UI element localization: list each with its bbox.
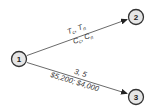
- node-1: 1: [12, 52, 27, 67]
- node-1-label: 1: [17, 55, 22, 64]
- edge-1-to-2: Tc, Tn Cc, Cn: [27, 20, 127, 56]
- network-diagram: Tc, Tn Cc, Cn 3, 5 $5,200; $4,000 1 2 3: [0, 0, 155, 109]
- node-3: 3: [129, 90, 144, 105]
- node-2: 2: [129, 10, 144, 25]
- node-3-label: 3: [134, 93, 139, 102]
- edge-1-to-3: 3, 5 $5,200; $4,000: [27, 60, 127, 93]
- node-2-label: 2: [134, 13, 139, 22]
